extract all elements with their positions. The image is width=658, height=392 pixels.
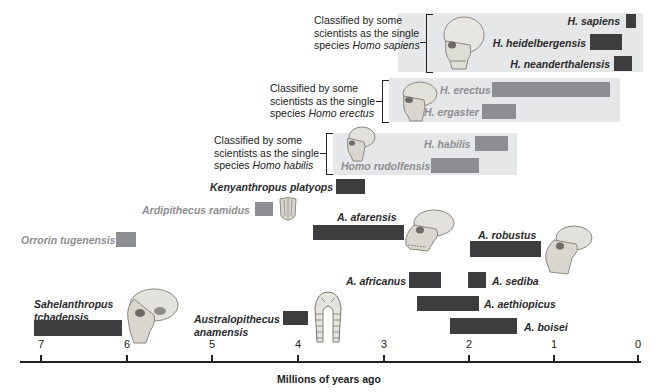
axis-tick-label-0: 0	[628, 338, 648, 350]
h-ergaster-bar	[482, 104, 516, 119]
sahelanthropus-bar	[34, 320, 122, 336]
time-axis-line	[20, 361, 641, 363]
axis-tick-0	[637, 355, 639, 362]
homo-sapiens-bracket	[426, 14, 433, 73]
sediba-label: A. sediba	[492, 275, 539, 287]
anamensis-label: Australopithecus anamensis	[194, 313, 280, 338]
h-ergaster-label: H. ergaster	[424, 106, 479, 118]
homo-erectus-bracket-tick	[376, 101, 382, 102]
h-neanderthalensis-bar	[614, 56, 632, 71]
h-rudolfensis-bar	[431, 158, 479, 173]
h-habilis-bar	[475, 136, 508, 151]
boisei-label: A. boisei	[524, 321, 568, 333]
afarensis-bar	[313, 225, 404, 240]
ardipithecus-bar	[255, 202, 273, 216]
h-habilis-label: H. habilis	[424, 138, 471, 150]
homo-habilis-bracket	[326, 133, 333, 175]
axis-tick-label-7: 7	[31, 338, 51, 350]
kenyanthropus-label: Kenyanthropus platyops	[210, 181, 333, 193]
axis-title: Millions of years ago	[0, 373, 658, 385]
africanus-bar	[409, 272, 441, 288]
axis-tick-5	[211, 355, 213, 362]
h-erectus-bar	[492, 82, 610, 97]
axis-tick-2	[468, 355, 470, 362]
anamensis-bar	[283, 311, 308, 325]
axis-tick-label-6: 6	[117, 338, 137, 350]
axis-tick-label-4: 4	[288, 338, 308, 350]
homo-sapiens-bracket-tick	[420, 42, 426, 43]
robustus-bar	[470, 241, 541, 257]
afarensis-skull-icon	[400, 205, 458, 260]
h-rudolfensis-label: Homo rudolfensis	[341, 160, 430, 172]
africanus-label: A. africanus	[346, 275, 406, 287]
h-sapiens-skull-icon	[438, 15, 486, 71]
ardipithecus-tooth-icon	[277, 196, 299, 224]
homo-habilis-group-note: Classified by some scientists as the sin…	[214, 134, 319, 172]
homo-erectus-group-note: Classified by some scientists as the sin…	[270, 82, 375, 120]
homo-erectus-bracket	[382, 80, 389, 123]
axis-tick-3	[383, 355, 385, 362]
axis-tick-1	[553, 355, 555, 362]
h-sapiens-bar	[626, 14, 636, 28]
boisei-bar	[450, 318, 517, 334]
h-heidelbergensis-label: H. heidelbergensis	[493, 37, 586, 49]
aethiopicus-label: A. aethiopicus	[484, 298, 556, 310]
h-neanderthalensis-label: H. neanderthalensis	[510, 58, 610, 70]
robustus-label: A. robustus	[478, 229, 536, 241]
afarensis-label: A. afarensis	[337, 211, 397, 223]
anamensis-jaw-icon	[311, 290, 345, 344]
axis-tick-label-1: 1	[544, 338, 564, 350]
orrorin-bar	[116, 232, 136, 247]
h-erectus-label: H. erectus	[440, 84, 491, 96]
orrorin-label: Orrorin tugenensis	[21, 234, 116, 246]
axis-tick-label-5: 5	[202, 338, 222, 350]
robustus-skull-icon	[540, 222, 596, 276]
sediba-bar	[468, 272, 486, 288]
axis-tick-label-3: 3	[374, 338, 394, 350]
axis-tick-4	[297, 355, 299, 362]
kenyanthropus-bar	[336, 179, 365, 194]
ardipithecus-label: Ardipithecus ramidus	[142, 204, 250, 216]
homo-sapiens-group-note: Classified by some scientists as the sin…	[314, 14, 420, 52]
homo-habilis-bracket-tick	[320, 153, 326, 154]
h-habilis-skull-icon	[342, 126, 376, 162]
axis-tick-label-2: 2	[459, 338, 479, 350]
axis-tick-6	[126, 355, 128, 362]
h-heidelbergensis-bar	[590, 34, 622, 50]
axis-tick-7	[40, 355, 42, 362]
h-sapiens-label: H. sapiens	[567, 15, 620, 27]
aethiopicus-bar	[417, 296, 479, 311]
